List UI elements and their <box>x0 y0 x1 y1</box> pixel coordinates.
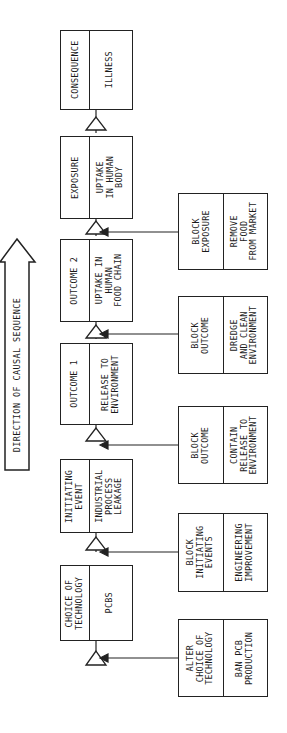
stage-value: UPTAKE IN HUMAN BODY <box>96 156 125 199</box>
stage-label: OUTCOME 1 <box>70 360 80 408</box>
intervention-action: BLOCK OUTCOME <box>191 316 210 353</box>
stage-value: INDUSTRIAL PROCESS LEAKAGE <box>96 469 125 522</box>
stage-label: CHOICE OF TECHNOLOGY <box>66 576 85 629</box>
chain-box-outcome-1: OUTCOME 1 RELEASE TO ENVIRONMENT <box>60 343 133 425</box>
chain-box-exposure: EXPOSURE UPTAKE IN HUMAN BODY <box>60 136 133 219</box>
gate-triangle-icon <box>86 428 106 441</box>
chain-box-initiating-event: INITIATING EVENT INDUSTRIAL PROCESS LEAK… <box>60 459 133 533</box>
chain-box-choice-of-technology: CHOICE OF TECHNOLOGY PCBS <box>60 565 133 641</box>
intervention-box-block-initiating-events: BLOCK INITIATING EVENTS ENGINEERING IMPR… <box>178 513 268 592</box>
chain-box-outcome-2: OUTCOME 2 UPTAKE IN HUMAN FOOD CHAIN <box>60 239 133 322</box>
stage-value: UPTAKE IN HUMAN FOOD CHAIN <box>96 254 125 307</box>
intervention-action: BLOCK INITIATING EVENTS <box>187 526 216 579</box>
stage-value: RELEASE TO ENVIRONMENT <box>101 355 120 414</box>
chain-box-consequence: CONSEQUENCE ILLNESS <box>60 30 133 110</box>
intervention-action: BLOCK OUTCOME <box>191 426 210 463</box>
stage-value: ILLNESS <box>105 51 115 88</box>
direction-arrow-label: DIRECTION OF CAUSAL SEQUENCE <box>12 298 22 453</box>
gate-triangle-icon <box>86 117 106 130</box>
intervention-action: BLOCK EXPOSURE <box>191 210 210 253</box>
intervention-example: DREDGE AND CLEAN ENVIRONMENT <box>230 306 259 365</box>
gate-triangle-icon <box>86 537 106 550</box>
stage-label: OUTCOME 2 <box>70 257 80 305</box>
intervention-box-block-exposure: BLOCK EXPOSURE REMOVE FOOD FROM MARKET <box>178 193 268 270</box>
intervention-box-block-outcome-2: BLOCK OUTCOME DREDGE AND CLEAN ENVIRONME… <box>178 296 268 374</box>
intervention-box-block-outcome-1: BLOCK OUTCOME CONTAIN RELEASE TO ENVIRON… <box>178 406 268 484</box>
intervention-box-alter-choice-of-technology: ALTER CHOICE OF TECHNOLOGY BAN PCB PRODU… <box>178 619 268 697</box>
intervention-example: ENGINEERING IMPROVEMENT <box>235 523 254 582</box>
intervention-action: ALTER CHOICE OF TECHNOLOGY <box>187 631 216 684</box>
intervention-example: CONTAIN RELEASE TO ENVIRONMENT <box>230 416 259 475</box>
stage-label: INITIATING EVENT <box>66 469 85 522</box>
intervention-example: BAN PCB PRODUCTION <box>235 631 254 684</box>
intervention-example: REMOVE FOOD FROM MARKET <box>230 202 259 261</box>
stage-label: CONSEQUENCE <box>70 41 80 100</box>
stage-value: PCBS <box>105 592 115 613</box>
stage-label: EXPOSURE <box>70 156 80 199</box>
